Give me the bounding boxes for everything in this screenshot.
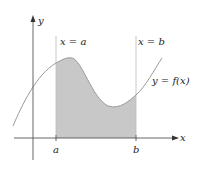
x-axis-label: x — [180, 132, 186, 143]
left-bound-label: x = a — [60, 36, 86, 47]
shaded-area — [56, 58, 136, 138]
tick-label-b: b — [133, 144, 139, 155]
tick-label-a: a — [53, 144, 59, 155]
y-axis-arrow-icon — [31, 15, 36, 22]
right-bound-label: x = b — [138, 36, 165, 47]
integral-diagram: y x x = a x = b y = f(x) a b — [0, 0, 197, 170]
x-axis-arrow-icon — [172, 136, 179, 141]
y-axis-label: y — [37, 15, 44, 26]
curve-label: y = f(x) — [151, 75, 190, 86]
